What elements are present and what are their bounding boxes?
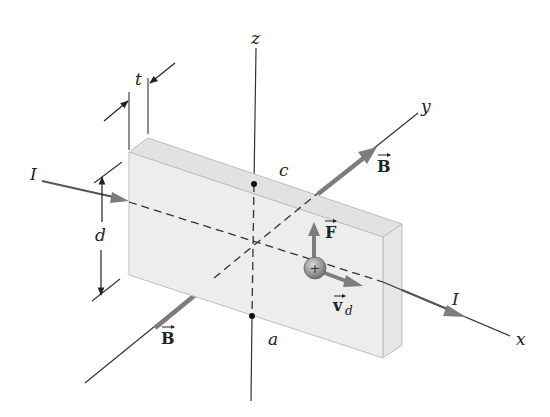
point-c	[251, 181, 257, 187]
z-axis-label: z	[250, 28, 261, 48]
positive-charge: +	[304, 257, 326, 279]
force-label: F	[325, 219, 337, 242]
current-in-arrow	[42, 181, 129, 203]
point-c-label: c	[279, 160, 289, 180]
magnetic-field-arrow-upper	[318, 147, 377, 194]
svg-text:B: B	[161, 329, 175, 348]
charge-sign: +	[310, 261, 321, 276]
field-label-lower: B	[161, 325, 175, 348]
thickness-label: t	[135, 69, 142, 89]
svg-text:v: v	[332, 296, 343, 315]
svg-text:F: F	[325, 223, 337, 242]
y-axis-label: y	[420, 96, 431, 116]
conducting-slab	[129, 138, 402, 358]
point-a-label: a	[268, 329, 278, 349]
point-a	[249, 313, 255, 319]
svg-text:B: B	[377, 157, 391, 176]
height-label: d	[95, 225, 106, 245]
svg-text:d: d	[345, 304, 353, 318]
x-axis-label: x	[516, 329, 526, 349]
current-out-label: I	[451, 289, 459, 309]
hall-effect-diagram: + z y x t d c a I I B B F	[0, 0, 550, 417]
field-label-upper: B	[377, 153, 391, 176]
current-in-label: I	[29, 164, 37, 184]
